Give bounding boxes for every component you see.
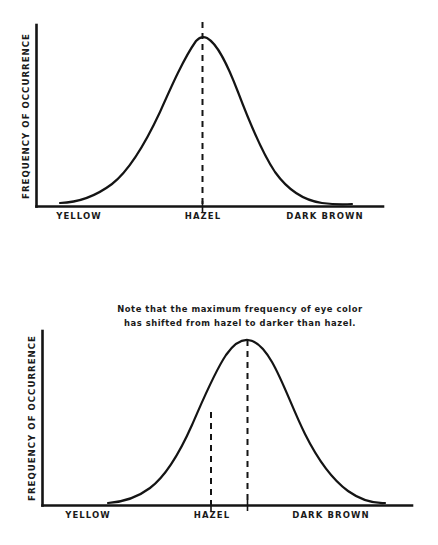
top-chart-xtick-yellow: YELLOW	[55, 211, 102, 221]
bottom-chart: Note that the maximum frequency of eye c…	[27, 304, 412, 520]
bottom-chart-note-line1: Note that the maximum frequency of eye c…	[117, 304, 363, 314]
top-chart-curve	[60, 37, 352, 204]
bottom-chart-xtick-dark-brown: DARK BROWN	[292, 510, 369, 520]
top-chart-xtick-hazel: HAZEL	[185, 211, 222, 221]
bottom-chart-xtick-hazel: HAZEL	[194, 510, 231, 520]
top-chart-y-axis-label: FREQUENCY OF OCCURRENCE	[21, 33, 31, 199]
bottom-chart-y-axis-label: FREQUENCY OF OCCURRENCE	[27, 335, 37, 501]
top-chart-xtick-dark-brown: DARK BROWN	[286, 211, 363, 221]
bottom-chart-note-line2: has shifted from hazel to darker than ha…	[124, 318, 356, 328]
top-chart: FREQUENCY OF OCCURRENCE YELLOW HAZEL DAR…	[21, 22, 383, 221]
bottom-chart-xtick-yellow: YELLOW	[64, 510, 111, 520]
eye-color-figure: FREQUENCY OF OCCURRENCE YELLOW HAZEL DAR…	[0, 0, 438, 545]
